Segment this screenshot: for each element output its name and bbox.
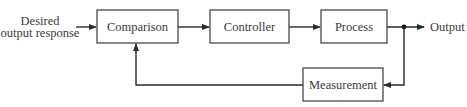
- comparison-block: Comparison: [97, 10, 178, 43]
- measurement-label: Measurement: [309, 78, 378, 92]
- measurement-block: Measurement: [303, 68, 383, 101]
- controller-block: Controller: [210, 10, 289, 43]
- block-diagram: Desired output response Comparison Contr…: [0, 0, 467, 107]
- input-label-line2: output response: [1, 26, 80, 40]
- comparison-label: Comparison: [107, 20, 169, 34]
- output-label: Output: [430, 20, 465, 34]
- measurement-to-comparison-arrow: [136, 44, 303, 85]
- controller-label: Controller: [224, 20, 276, 34]
- process-label: Process: [335, 20, 373, 34]
- process-block: Process: [321, 10, 387, 43]
